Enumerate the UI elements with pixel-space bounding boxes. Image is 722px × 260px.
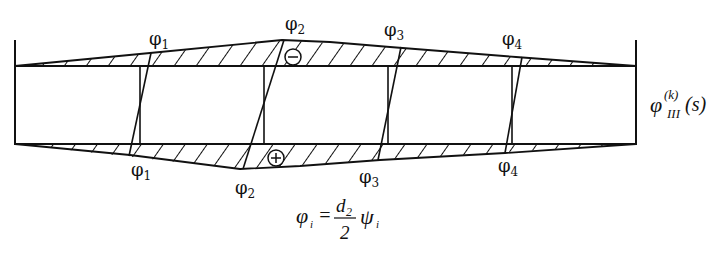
svg-text:i: i	[310, 218, 313, 230]
svg-text:φ: φ	[296, 203, 308, 228]
top-label-phi3: φ3	[384, 19, 404, 43]
svg-text:=: =	[318, 204, 332, 226]
bottom-label-phi3: φ3	[359, 166, 379, 190]
bottom-label-phi4: φ4	[498, 155, 519, 179]
plus-sign-marker	[268, 150, 284, 166]
bottom-hatched-region	[15, 144, 636, 169]
stiffener-1	[129, 53, 151, 156]
svg-text:i: i	[376, 218, 379, 230]
top-hatched-region	[15, 40, 636, 66]
svg-text:2: 2	[340, 222, 350, 243]
bottom-label-phi2: φ2	[235, 177, 255, 201]
side-label-phi-III: φ (k) III (s)	[650, 87, 706, 121]
top-label-phi2: φ2	[285, 13, 305, 37]
svg-text:2: 2	[346, 205, 352, 219]
bottom-label-phi1: φ1	[131, 159, 151, 183]
top-label-phi1: φ1	[149, 28, 169, 52]
stiffener-4	[505, 57, 522, 153]
formula-phi-i: φ i = d 2 2 ψ i	[296, 195, 379, 243]
svg-text:(k): (k)	[664, 87, 678, 102]
diagram-canvas: φ1 φ2 φ3 φ4 φ1 φ2 φ3 φ4 φ (k) III (s) φ …	[0, 0, 722, 260]
svg-text:(s): (s)	[685, 93, 706, 116]
top-label-phi4: φ4	[502, 28, 523, 52]
minus-sign-marker	[285, 49, 301, 65]
svg-text:d: d	[336, 195, 346, 216]
svg-text:φ: φ	[650, 92, 662, 117]
svg-text:ψ: ψ	[360, 204, 374, 229]
beam-diagram: φ1 φ2 φ3 φ4 φ1 φ2 φ3 φ4 φ (k) III (s) φ …	[0, 0, 722, 260]
svg-text:III: III	[666, 106, 681, 121]
